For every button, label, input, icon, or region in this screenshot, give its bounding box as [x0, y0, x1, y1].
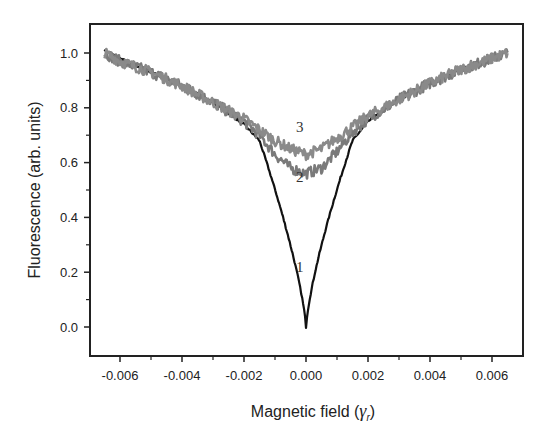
curves: [105, 49, 508, 328]
y-tick-label: 0.8: [60, 100, 78, 115]
y-tick-label: 1.0: [60, 46, 78, 61]
x-tick-label: -0.002: [226, 368, 263, 383]
curve-label-3: 3: [296, 119, 304, 135]
x-tick-label: 0.000: [290, 368, 323, 383]
y-tick-label: 0.0: [60, 320, 78, 335]
x-axis-ticks: -0.006-0.004-0.0020.0000.0020.0040.006: [102, 356, 509, 383]
x-tick-label: 0.006: [476, 368, 509, 383]
y-axis-ticks: 0.00.20.40.60.81.0: [60, 46, 90, 335]
x-axis-label-close: ): [370, 403, 375, 420]
y-axis-label: Fluorescence (arb. units): [26, 102, 43, 279]
curve-label-1: 1: [296, 259, 304, 275]
curve-label-2: 2: [296, 169, 304, 185]
x-axis-label-main: Magnetic field (: [251, 403, 360, 420]
curve-3: [105, 49, 508, 160]
x-axis-label: Magnetic field (γr): [251, 401, 375, 423]
x-tick-label: 0.002: [352, 368, 385, 383]
x-tick-label: -0.006: [102, 368, 139, 383]
x-tick-label: 0.004: [414, 368, 447, 383]
y-tick-label: 0.4: [60, 210, 78, 225]
y-tick-label: 0.6: [60, 155, 78, 170]
y-tick-label: 0.2: [60, 265, 78, 280]
curve-1: [105, 50, 508, 328]
x-tick-label: -0.004: [164, 368, 201, 383]
fluorescence-chart: -0.006-0.004-0.0020.0000.0020.0040.006 0…: [0, 0, 542, 439]
curve-annotations: 123: [296, 119, 304, 275]
